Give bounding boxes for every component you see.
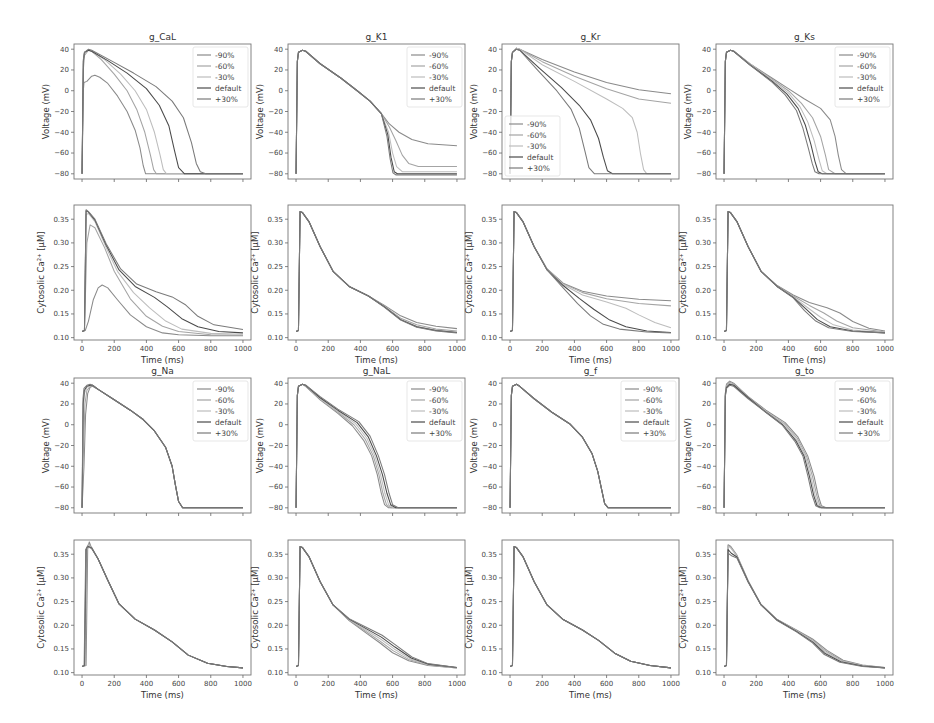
y-tick-label: −20 bbox=[54, 108, 69, 116]
y-tick-label: 0 bbox=[65, 87, 69, 95]
x-tick-label: 0 bbox=[722, 345, 726, 353]
y-tick-label: 20 bbox=[702, 400, 711, 408]
x-tick-label: 1000 bbox=[662, 345, 680, 353]
y-tick-label: 0.15 bbox=[481, 310, 497, 318]
legend-label: -30% bbox=[215, 73, 234, 82]
x-tick-label: 0 bbox=[508, 345, 512, 353]
legend-label: -90% bbox=[215, 385, 234, 394]
y-tick-label: 0.35 bbox=[481, 551, 497, 559]
y-tick-label: 20 bbox=[274, 66, 283, 74]
y-tick-label: 0.35 bbox=[695, 551, 711, 559]
legend-label: default bbox=[429, 418, 455, 427]
y-tick-label: 0.20 bbox=[53, 287, 69, 295]
y-axis-label: Cytosolic Ca²⁺ [μM] bbox=[250, 231, 260, 313]
y-tick-label: 0.35 bbox=[267, 551, 283, 559]
y-tick-label: 0.10 bbox=[267, 669, 283, 677]
x-tick-label: 600 bbox=[172, 680, 185, 688]
legend-label: -90% bbox=[429, 385, 448, 394]
y-tick-label: −60 bbox=[696, 149, 711, 157]
y-tick-label: 0.35 bbox=[267, 216, 283, 224]
x-tick-label: 0 bbox=[294, 345, 298, 353]
y-tick-label: 20 bbox=[702, 66, 711, 74]
x-tick-label: 1000 bbox=[662, 680, 680, 688]
legend-label: default bbox=[643, 418, 669, 427]
y-axis-label: Cytosolic Ca²⁺ [μM] bbox=[678, 231, 688, 313]
legend-label: -90% bbox=[857, 51, 876, 60]
y-tick-label: 0.15 bbox=[267, 310, 283, 318]
legend-label: -60% bbox=[215, 62, 234, 71]
y-tick-label: −60 bbox=[482, 483, 497, 491]
x-tick-label: 1000 bbox=[448, 680, 466, 688]
y-axis-label: Cytosolic Ca²⁺ [μM] bbox=[36, 566, 46, 648]
legend: -90%-60%-30%default+30% bbox=[407, 381, 462, 441]
x-axis-label: Time (ms) bbox=[782, 355, 826, 365]
y-tick-label: 0.30 bbox=[481, 574, 497, 582]
y-tick-label: −20 bbox=[54, 442, 69, 450]
y-axis-label: Voltage (mV) bbox=[41, 84, 51, 139]
x-tick-label: 400 bbox=[568, 680, 581, 688]
y-tick-label: 0.20 bbox=[53, 622, 69, 630]
legend: -90%-60%-30%default+30% bbox=[505, 116, 560, 176]
figure: g_CaL40200−20−40−60−80Voltage (mV)-90%-6… bbox=[0, 0, 934, 723]
y-axis-label: Cytosolic Ca²⁺ [μM] bbox=[36, 231, 46, 313]
y-tick-label: 40 bbox=[488, 380, 497, 388]
y-tick-label: 0.10 bbox=[53, 669, 69, 677]
x-tick-label: 600 bbox=[600, 680, 613, 688]
x-tick-label: 600 bbox=[814, 680, 827, 688]
legend-label: -30% bbox=[857, 73, 876, 82]
x-tick-label: 200 bbox=[536, 345, 549, 353]
legend-label: -30% bbox=[857, 407, 876, 416]
y-axis-label: Cytosolic Ca²⁺ [μM] bbox=[464, 566, 474, 648]
x-tick-label: 0 bbox=[508, 680, 512, 688]
y-tick-label: 0.20 bbox=[267, 622, 283, 630]
x-tick-label: 0 bbox=[80, 345, 84, 353]
y-tick-label: −80 bbox=[54, 170, 69, 178]
legend-label: +30% bbox=[215, 95, 238, 104]
legend-label: +30% bbox=[429, 95, 452, 104]
x-tick-label: 0 bbox=[722, 680, 726, 688]
y-axis-label: Voltage (mV) bbox=[255, 84, 265, 139]
x-tick-label: 1000 bbox=[234, 680, 252, 688]
legend-label: -90% bbox=[857, 385, 876, 394]
y-tick-label: −40 bbox=[268, 129, 283, 137]
y-tick-label: 0.25 bbox=[695, 263, 711, 271]
legend-label: -90% bbox=[429, 51, 448, 60]
legend-label: +30% bbox=[215, 429, 238, 438]
y-tick-label: −40 bbox=[696, 463, 711, 471]
y-tick-label: 0.25 bbox=[481, 263, 497, 271]
legend-label: -60% bbox=[527, 131, 546, 140]
y-tick-label: −20 bbox=[482, 442, 497, 450]
y-tick-label: 0 bbox=[493, 87, 497, 95]
legend-label: default bbox=[429, 84, 455, 93]
panel-title: g_f bbox=[584, 366, 598, 376]
legend: -90%-60%-30%default+30% bbox=[193, 47, 248, 107]
y-tick-label: 0.15 bbox=[53, 645, 69, 653]
x-tick-label: 1000 bbox=[448, 345, 466, 353]
y-tick-label: 0 bbox=[279, 421, 283, 429]
legend-label: -90% bbox=[527, 120, 546, 129]
y-tick-label: 20 bbox=[60, 400, 69, 408]
panel-title: g_NaL bbox=[363, 366, 390, 376]
y-tick-label: 0.10 bbox=[481, 669, 497, 677]
x-tick-label: 200 bbox=[108, 680, 121, 688]
y-tick-label: −80 bbox=[482, 170, 497, 178]
legend-label: default bbox=[857, 84, 883, 93]
y-tick-label: 0.25 bbox=[53, 598, 69, 606]
y-tick-label: 40 bbox=[60, 380, 69, 388]
y-tick-label: 40 bbox=[60, 46, 69, 54]
legend: -90%-60%-30%default+30% bbox=[407, 47, 462, 107]
y-tick-label: 0 bbox=[279, 87, 283, 95]
legend-label: -30% bbox=[215, 407, 234, 416]
x-tick-label: 200 bbox=[750, 680, 763, 688]
legend-label: -60% bbox=[643, 396, 662, 405]
y-tick-label: −80 bbox=[54, 504, 69, 512]
x-tick-label: 0 bbox=[294, 680, 298, 688]
legend-label: -60% bbox=[429, 62, 448, 71]
y-tick-label: 0.30 bbox=[53, 239, 69, 247]
y-tick-label: 0.25 bbox=[481, 598, 497, 606]
x-tick-label: 400 bbox=[354, 345, 367, 353]
y-tick-label: −80 bbox=[268, 170, 283, 178]
x-tick-label: 800 bbox=[204, 345, 217, 353]
legend-label: default bbox=[215, 84, 241, 93]
y-tick-label: 0.10 bbox=[53, 334, 69, 342]
